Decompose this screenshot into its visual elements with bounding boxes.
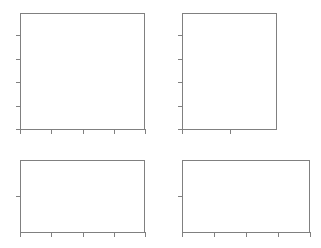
- x-axis-tick: [145, 232, 146, 237]
- y-axis-tick: [178, 106, 183, 107]
- y-axis-tick: [178, 35, 183, 36]
- x-axis-tick: [246, 232, 247, 237]
- x-axis-tick: [278, 232, 279, 237]
- axes-frame: [20, 13, 145, 130]
- x-axis-tick: [114, 232, 115, 237]
- y-axis-tick: [16, 82, 21, 83]
- y-axis-tick: [178, 59, 183, 60]
- x-axis-tick: [51, 129, 52, 134]
- axes-frame: [20, 160, 145, 233]
- x-axis-tick: [83, 129, 84, 134]
- panel-bottom-left[interactable]: [20, 160, 145, 233]
- figure-canvas: [0, 0, 321, 248]
- x-axis-tick: [214, 232, 215, 237]
- y-axis-tick: [178, 196, 183, 197]
- axes-frame: [182, 160, 310, 233]
- x-axis-tick: [20, 129, 21, 134]
- y-axis-tick: [16, 196, 21, 197]
- panel-top-right[interactable]: [182, 13, 277, 130]
- y-axis-tick: [16, 35, 21, 36]
- x-axis-tick: [114, 129, 115, 134]
- x-axis-tick: [145, 129, 146, 134]
- x-axis-tick: [83, 232, 84, 237]
- y-axis-tick: [16, 59, 21, 60]
- panel-bottom-right[interactable]: [182, 160, 310, 233]
- x-axis-tick: [310, 232, 311, 237]
- x-axis-tick: [230, 129, 231, 134]
- x-axis-tick: [182, 129, 183, 134]
- y-axis-tick: [178, 82, 183, 83]
- panel-top-left[interactable]: [20, 13, 145, 130]
- x-axis-tick: [51, 232, 52, 237]
- y-axis-tick: [16, 106, 21, 107]
- x-axis-tick: [182, 232, 183, 237]
- x-axis-tick: [20, 232, 21, 237]
- axes-frame: [182, 13, 277, 130]
